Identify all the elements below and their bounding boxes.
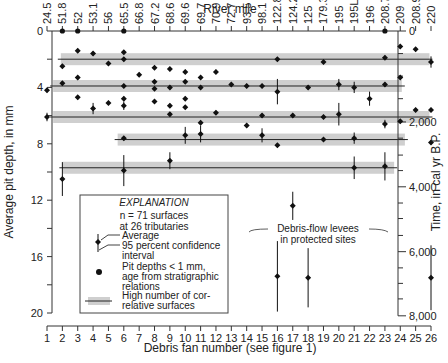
average-marker [121, 103, 127, 109]
average-marker [121, 96, 127, 102]
x-tick-label: 19 [317, 332, 329, 344]
y-tick-label: 4 [37, 81, 43, 93]
x-tick-label: 24 [394, 332, 406, 344]
x-tick-label: 2 [59, 332, 65, 344]
average-marker [152, 99, 158, 105]
average-marker [428, 275, 434, 281]
average-marker [75, 94, 81, 100]
river-mile-label: 124.2 [287, 0, 299, 24]
river-mile-label: 98.1 [256, 3, 268, 24]
average-marker [274, 273, 280, 279]
y-axis-title: Average pit depth, in mm [2, 105, 16, 238]
average-marker [182, 69, 188, 75]
annotation-bracket-right [369, 229, 388, 232]
y-axis-right-title: Time, in cal yr B.P. [429, 133, 443, 232]
pit-depth-chart: River mile 04812162002,0004,0006,0008,00… [0, 0, 448, 363]
average-marker [105, 100, 111, 106]
correlative-bands [50, 53, 432, 174]
y-tick-label: 8 [37, 138, 43, 150]
river-mile-label: 56 [102, 12, 114, 24]
legend-ci-label-2: interval [122, 250, 154, 261]
average-marker [290, 203, 296, 209]
right-tick-label: 2,000 [409, 116, 437, 128]
annotation-line-1: Debris-flow levees [277, 223, 359, 234]
average-marker [244, 122, 250, 128]
right-tick-label: 8,000 [409, 310, 437, 322]
annotation-bracket-left [249, 229, 268, 232]
x-tick-label: 5 [105, 332, 111, 344]
river-mile-label: 179.3 [317, 0, 329, 24]
y-tick-label: 20 [31, 307, 43, 319]
river-mile-label: 209 [394, 6, 406, 24]
x-tick-label: 26 [425, 332, 437, 344]
x-tick-label: 7 [136, 332, 142, 344]
river-mile-label: 72.7 [225, 3, 237, 24]
average-marker [367, 96, 373, 102]
x-tick-label: 6 [121, 332, 127, 344]
levee-annotation: Debris-flow levees in protected sites [249, 223, 388, 245]
average-marker [305, 275, 311, 281]
river-mile-label: 68.6 [164, 3, 176, 24]
average-marker [75, 48, 81, 54]
average-marker [152, 65, 158, 71]
river-mile-label: 195L [348, 0, 360, 24]
y-tick-label: 16 [31, 251, 43, 263]
river-mile-label: 65.5 [118, 3, 130, 24]
y-tick-label: 0 [37, 25, 43, 37]
average-marker [167, 66, 173, 72]
river-mile-label: 195 [333, 6, 345, 24]
legend-summary-1: n = 71 surfaces [120, 210, 189, 221]
average-marker [44, 114, 50, 120]
river-mile-label: 125 [302, 6, 314, 24]
average-marker [44, 87, 50, 93]
x-tick-label: 3 [75, 332, 81, 344]
river-mile-label: 24.5 [41, 3, 53, 24]
right-tick-label: 0 [409, 25, 415, 37]
right-tick-label: 6,000 [409, 246, 437, 258]
annotation-line-2: in protected sites [280, 234, 356, 245]
river-mile-label: 93.5 [241, 3, 253, 24]
x-tick-label: 4 [90, 332, 96, 344]
x-tick-label: 22 [363, 332, 375, 344]
average-marker [182, 96, 188, 102]
average-marker [75, 75, 81, 81]
legend-dot-marker [96, 269, 102, 275]
x-tick-label: 20 [333, 332, 345, 344]
river-mile-label: 52 [72, 12, 84, 24]
legend: EXPLANATION n = 71 surfaces at 26 tribut… [80, 195, 228, 313]
river-mile-label: 196 [364, 6, 376, 24]
river-mile-label: 208.7 [379, 0, 391, 24]
x-tick-label: 23 [379, 332, 391, 344]
river-mile-label: 220 [425, 6, 437, 24]
y-tick-label: 12 [31, 194, 43, 206]
x-tick-label: 25 [410, 332, 422, 344]
age-dot [382, 28, 387, 33]
x-tick-label: 21 [348, 332, 360, 344]
age-dot [60, 28, 65, 33]
legend-band-label-2: relative surfaces [122, 300, 195, 311]
river-mile-label: 67.2 [149, 3, 161, 24]
age-dot [75, 28, 80, 33]
average-marker [413, 46, 419, 52]
legend-title: EXPLANATION [119, 197, 189, 208]
age-dot [121, 28, 126, 33]
average-marker [59, 176, 65, 182]
river-mile-label: 208.9 [410, 0, 422, 24]
average-marker [167, 103, 173, 109]
average-marker [198, 75, 204, 81]
river-mile-label: 69.6 [179, 3, 191, 24]
river-mile-label: 51.8 [56, 3, 68, 24]
average-marker [136, 72, 142, 78]
river-mile-label: 66.8 [133, 3, 145, 24]
river-mile-label: 122.8 [271, 0, 283, 24]
average-marker [90, 106, 96, 112]
x-tick-label: 1 [44, 332, 50, 344]
river-mile-label: 53.1 [87, 3, 99, 24]
river-mile-label: 70.9 [210, 3, 222, 24]
average-marker [182, 104, 188, 110]
x-axis-title: Debris fan number (see figure 1) [144, 341, 317, 355]
average-marker [213, 69, 219, 75]
river-mile-label: 69.7 [195, 3, 207, 24]
